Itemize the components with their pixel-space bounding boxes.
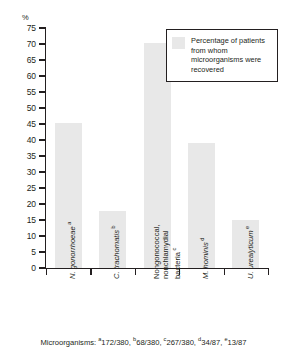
- y-axis-tick: [39, 75, 45, 76]
- x-axis-label-3: Nongonococcal,nonchlamydialbacteria c: [153, 225, 182, 279]
- y-axis-tick-label: 10: [0, 232, 36, 241]
- x-axis-tick: [90, 269, 91, 275]
- x-axis-label-line: U. urealyticum e: [243, 226, 255, 279]
- x-axis-tick: [46, 269, 47, 275]
- footnote-marker: a: [66, 222, 72, 227]
- y-axis-tick: [39, 107, 45, 108]
- legend-label: Percentage of patients from whom microor…: [191, 36, 272, 74]
- x-axis-label-2: C. trachomatis b: [109, 225, 121, 279]
- y-axis-tick-label: 35: [0, 152, 36, 161]
- y-axis-tick-label: 40: [0, 136, 36, 145]
- y-axis-tick: [39, 139, 45, 140]
- x-axis-label-line: M. hominis d: [198, 238, 210, 279]
- y-axis-tick-label: 70: [0, 40, 36, 49]
- y-axis-tick-label: 15: [0, 216, 36, 225]
- footnote-marker: b: [110, 225, 116, 230]
- y-axis-tick: [39, 155, 45, 156]
- footnote-value: 68/380,: [136, 338, 163, 347]
- y-axis-tick: [39, 27, 45, 28]
- y-axis-tick: [39, 43, 45, 44]
- x-axis-tick: [224, 269, 225, 275]
- y-axis-tick-label: 65: [0, 56, 36, 65]
- legend: Percentage of patients from whom microor…: [166, 29, 278, 82]
- footnote-value: 267/380,: [166, 338, 198, 347]
- y-axis-tick: [39, 203, 45, 204]
- y-axis-tick-label: 20: [0, 200, 36, 209]
- footnote-marker: d: [199, 238, 205, 243]
- y-axis-tick-label: 60: [0, 72, 36, 81]
- legend-swatch-icon: [172, 37, 185, 49]
- y-axis-tick: [39, 219, 45, 220]
- y-axis-tick: [39, 91, 45, 92]
- footnote-prefix: Microorganisms:: [40, 338, 98, 347]
- x-axis-tick: [135, 269, 136, 275]
- x-axis-tick: [268, 269, 269, 275]
- x-axis-label-1: N. gonorrhoeae a: [65, 222, 77, 279]
- y-axis-tick-label: 0: [0, 264, 36, 273]
- footnote: Microorganisms: a172/380, b68/380, c267/…: [0, 335, 287, 347]
- y-axis-tick: [39, 187, 45, 188]
- y-axis-tick-label: 55: [0, 88, 36, 97]
- y-axis-unit-label: %: [22, 14, 29, 22]
- footnote-marker: e: [244, 226, 250, 231]
- footnote-value: 13/87: [228, 338, 247, 347]
- y-axis-tick: [39, 267, 45, 268]
- x-axis-label-4: M. hominis d: [198, 238, 210, 279]
- y-axis-tick-label: 30: [0, 168, 36, 177]
- y-axis-tick-label: 5: [0, 248, 36, 257]
- y-axis-tick: [39, 59, 45, 60]
- x-axis-label-line: N. gonorrhoeae a: [65, 222, 77, 279]
- bar-chart-figure: % 051015202530354045505560657075 Percent…: [0, 0, 287, 351]
- footnote-value: 172/380,: [101, 338, 133, 347]
- footnote-value: 34/87,: [201, 338, 224, 347]
- y-axis-tick-label: 75: [0, 24, 36, 33]
- y-axis-tick-label: 50: [0, 104, 36, 113]
- y-axis-tick: [39, 251, 45, 252]
- y-axis-tick-label: 45: [0, 120, 36, 129]
- x-axis-label-line: C. trachomatis b: [109, 225, 121, 279]
- y-axis-tick: [39, 171, 45, 172]
- footnote-marker: c: [171, 248, 177, 252]
- x-axis-label-5: U. urealyticum e: [243, 226, 255, 279]
- y-axis-tick: [39, 235, 45, 236]
- x-axis-label-line: nonchlamydial: [162, 225, 171, 279]
- x-axis-label-line: bacteria c: [170, 225, 182, 279]
- y-axis-tick-label: 25: [0, 184, 36, 193]
- y-axis-tick: [39, 123, 45, 124]
